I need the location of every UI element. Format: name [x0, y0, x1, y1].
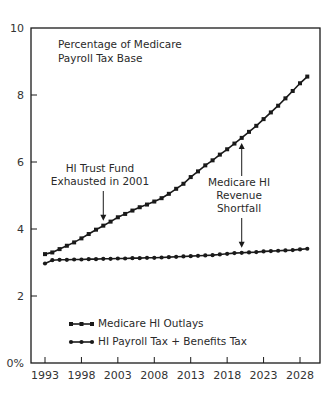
x-tick-label: 2013	[177, 369, 205, 382]
data-point	[203, 253, 207, 257]
data-point	[79, 257, 83, 261]
data-point	[189, 254, 193, 258]
y-axis-ticks: 0%246810	[7, 22, 37, 370]
data-point	[87, 257, 91, 261]
data-point	[116, 256, 120, 260]
data-point	[174, 187, 178, 191]
data-point	[269, 249, 273, 253]
data-point	[167, 192, 171, 196]
data-point	[109, 220, 113, 224]
legend-label-payroll: HI Payroll Tax + Benefits Tax	[98, 335, 247, 347]
arrowhead-icon	[239, 143, 245, 149]
data-point	[218, 153, 222, 157]
data-point	[123, 256, 127, 260]
data-point	[58, 247, 62, 251]
arrowhead-icon	[239, 242, 245, 248]
x-tick-label: 2023	[250, 369, 278, 382]
data-point	[196, 254, 200, 258]
data-point	[43, 261, 47, 265]
series-payroll	[43, 247, 309, 266]
data-point	[50, 250, 54, 254]
annotation-shortfall-line-1: Medicare HI	[208, 176, 270, 188]
x-tick-label: 2003	[104, 369, 132, 382]
x-tick-label: 1993	[31, 369, 59, 382]
plot-frame	[31, 28, 320, 363]
legend-swatch-circle-markers	[69, 340, 94, 344]
x-tick-label: 2028	[286, 369, 314, 382]
data-point	[283, 96, 287, 100]
data-point	[181, 182, 185, 186]
line-chart: 0%246810 1993199820032008201320182023202…	[0, 0, 335, 395]
data-point	[240, 136, 244, 140]
data-point	[298, 247, 302, 251]
y-tick-label: 0%	[7, 357, 24, 370]
data-point	[138, 256, 142, 260]
data-point	[262, 117, 266, 121]
data-point	[101, 224, 105, 228]
data-point	[65, 244, 69, 248]
data-point	[101, 257, 105, 261]
data-point	[196, 169, 200, 173]
data-point	[291, 248, 295, 252]
data-point	[305, 247, 309, 251]
chart-title-line-1: Percentage of Medicare	[58, 38, 182, 50]
data-point	[269, 110, 273, 114]
data-point	[130, 209, 134, 213]
data-point	[225, 147, 229, 151]
data-point	[145, 203, 149, 207]
data-point	[189, 175, 193, 179]
data-point	[247, 130, 251, 134]
data-point	[291, 89, 295, 93]
data-point	[130, 256, 134, 260]
legend-label-outlays: Medicare HI Outlays	[98, 317, 204, 329]
data-point	[174, 255, 178, 259]
data-point	[123, 212, 127, 216]
data-point	[72, 257, 76, 261]
data-point	[152, 256, 156, 260]
data-point	[247, 250, 251, 254]
x-axis-ticks: 19931998200320082013201820232028	[31, 357, 314, 382]
data-point	[65, 258, 69, 262]
data-point	[305, 75, 309, 79]
data-point	[50, 258, 54, 262]
data-point	[210, 253, 214, 257]
data-point	[218, 252, 222, 256]
x-tick-label: 2008	[140, 369, 168, 382]
x-tick-label: 1998	[67, 369, 95, 382]
data-point	[116, 215, 120, 219]
annotation-trust-fund-line-1: HI Trust Fund	[66, 162, 135, 174]
data-point	[211, 158, 215, 162]
data-point	[232, 251, 236, 255]
data-point	[254, 250, 258, 254]
data-point	[232, 142, 236, 146]
data-point	[283, 248, 287, 252]
y-tick-label: 10	[10, 22, 24, 35]
data-point	[203, 163, 207, 167]
annotation-revenue-shortfall: Medicare HI Revenue Shortfall	[208, 143, 270, 248]
data-point	[261, 249, 265, 253]
data-point	[138, 205, 142, 209]
y-tick-label: 6	[17, 156, 24, 169]
data-point	[87, 232, 91, 236]
data-point	[72, 240, 76, 244]
arrowhead-icon	[100, 215, 106, 221]
data-point	[57, 258, 61, 262]
data-point	[240, 251, 244, 255]
annotation-shortfall-line-2: Revenue	[216, 189, 262, 201]
y-tick-label: 2	[17, 290, 24, 303]
data-point	[159, 255, 163, 259]
y-tick-label: 4	[17, 223, 24, 236]
data-point	[167, 255, 171, 259]
data-point	[254, 124, 258, 128]
data-point	[43, 252, 47, 256]
data-point	[276, 104, 280, 108]
annotation-trust-fund-line-2: Exhausted in 2001	[51, 175, 149, 187]
annotation-shortfall-line-3: Shortfall	[217, 202, 261, 214]
data-point	[225, 252, 229, 256]
legend: Medicare HI Outlays HI Payroll Tax + Ben…	[69, 317, 247, 347]
chart-title-line-2: Payroll Tax Base	[58, 52, 142, 64]
legend-swatch-square-markers	[69, 322, 94, 326]
data-point	[152, 200, 156, 204]
data-point	[298, 81, 302, 85]
data-point	[276, 249, 280, 253]
